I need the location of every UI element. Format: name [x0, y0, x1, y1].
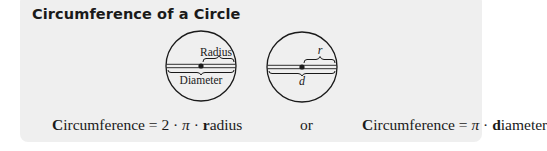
formula-operator: · [190, 116, 203, 133]
formula-diameter: Circumference = π · diameter [362, 116, 547, 134]
formula-word: iameter [501, 116, 547, 133]
formula-word: adius [210, 116, 243, 133]
circle-diagram-symbols: r d [267, 32, 337, 102]
formula-word: ircumference [373, 116, 455, 133]
formula-operator: = 2 · [145, 116, 182, 133]
formula-initial: C [52, 116, 63, 133]
diameter-symbol: d [299, 74, 306, 88]
formula-initial: d [492, 116, 501, 133]
formula-word: ircumference [63, 116, 145, 133]
formula-initial: C [362, 116, 373, 133]
radius-symbol: r [318, 43, 323, 57]
formula-initial: r [203, 116, 210, 133]
center-point [198, 63, 203, 68]
connector-or: or [300, 116, 313, 134]
center-point [299, 64, 304, 69]
diameter-label: Diameter [180, 74, 223, 86]
formula-operator: · [479, 116, 492, 133]
pi-symbol: π [182, 116, 190, 133]
circle-diagram-words: Radius Diameter [166, 31, 236, 101]
formula-operator: = [455, 116, 472, 133]
formula-radius: Circumference = 2 · π · radius [52, 116, 242, 134]
radius-label: Radius [200, 46, 232, 58]
